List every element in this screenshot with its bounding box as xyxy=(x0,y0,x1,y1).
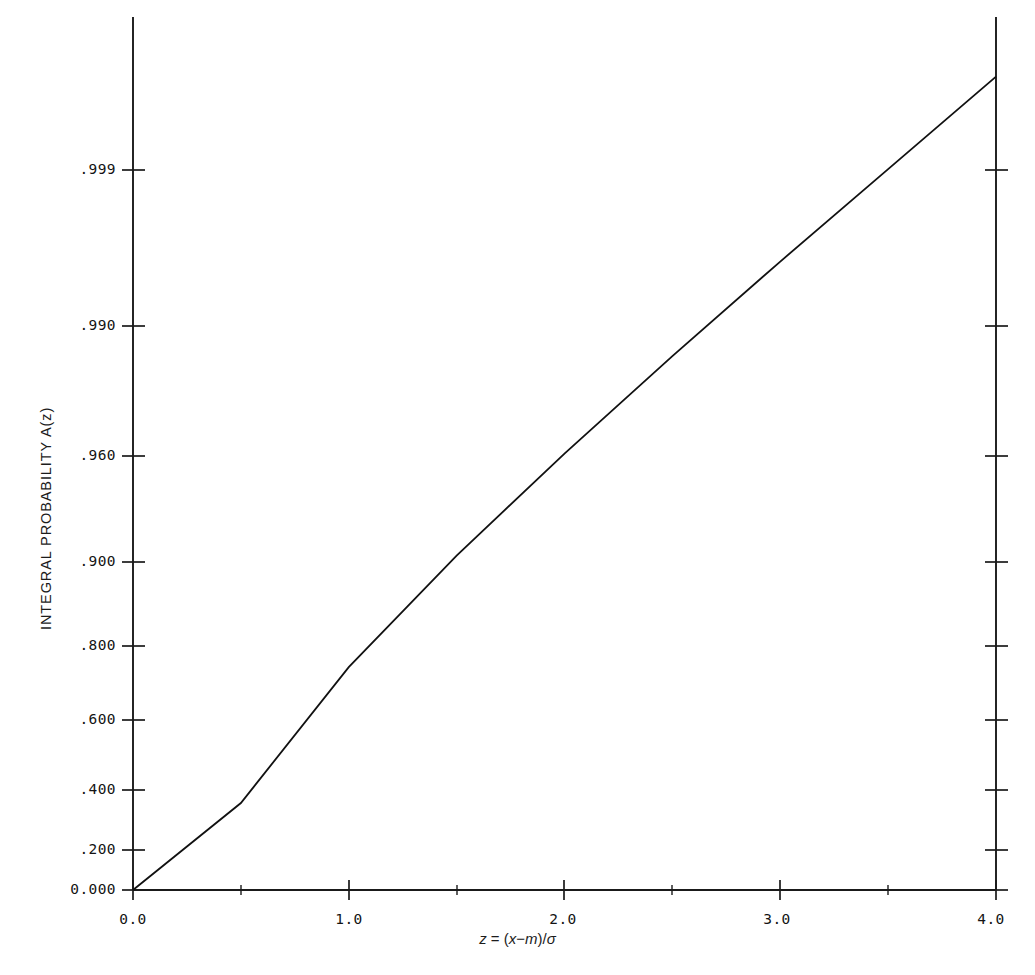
data-series-line xyxy=(133,77,996,890)
plot-area xyxy=(0,0,1035,975)
probability-plot-figure: INTEGRAL PROBABILITY A(z) .999 .990 .960… xyxy=(0,0,1035,975)
